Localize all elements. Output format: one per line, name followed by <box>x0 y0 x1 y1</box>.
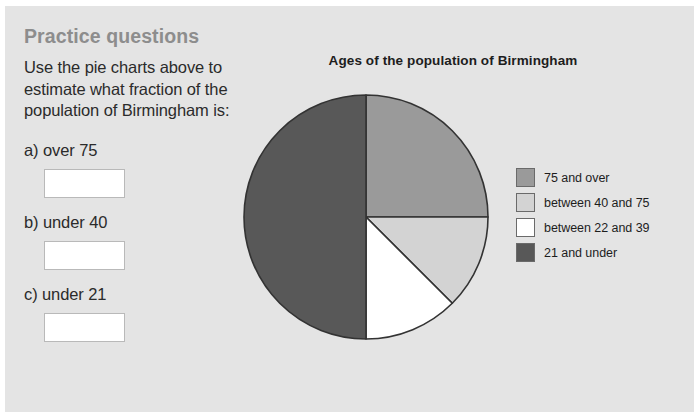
question-label-a: a) over 75 <box>24 140 239 161</box>
legend-item: between 22 and 39 <box>516 215 650 240</box>
pie-slice <box>366 95 488 217</box>
question-label-c: c) under 21 <box>24 284 239 305</box>
worksheet-panel: Practice questions Use the pie charts ab… <box>5 6 694 412</box>
pie-slice <box>244 95 366 339</box>
pie-slice-group <box>244 95 488 339</box>
legend-label: 21 and under <box>544 246 617 260</box>
answer-box-b[interactable] <box>44 241 125 270</box>
legend-label: between 22 and 39 <box>544 221 650 235</box>
question-item-c: c) under 21 <box>24 284 239 342</box>
chart-title: Ages of the population of Birmingham <box>243 53 663 68</box>
legend-item: between 40 and 75 <box>516 190 650 215</box>
legend-label: 75 and over <box>544 171 609 185</box>
legend-swatch-icon <box>516 193 535 212</box>
legend-label: between 40 and 75 <box>544 196 650 210</box>
legend-item: 21 and under <box>516 240 650 265</box>
question-item-a: a) over 75 <box>24 140 239 198</box>
answer-box-a[interactable] <box>44 169 125 198</box>
page-title: Practice questions <box>24 24 239 48</box>
question-item-b: b) under 40 <box>24 212 239 270</box>
worksheet-page: Practice questions Use the pie charts ab… <box>0 0 694 412</box>
legend-item: 75 and over <box>516 165 650 190</box>
question-label-b: b) under 40 <box>24 212 239 233</box>
instructions-text: Use the pie charts above to estimate wha… <box>24 57 239 122</box>
pie-chart <box>242 93 490 341</box>
questions-column: Practice questions Use the pie charts ab… <box>24 24 239 342</box>
answer-box-c[interactable] <box>44 313 125 342</box>
legend-swatch-icon <box>516 243 535 262</box>
legend-swatch-icon <box>516 218 535 237</box>
legend-swatch-icon <box>516 168 535 187</box>
chart-legend: 75 and overbetween 40 and 75between 22 a… <box>516 165 650 265</box>
